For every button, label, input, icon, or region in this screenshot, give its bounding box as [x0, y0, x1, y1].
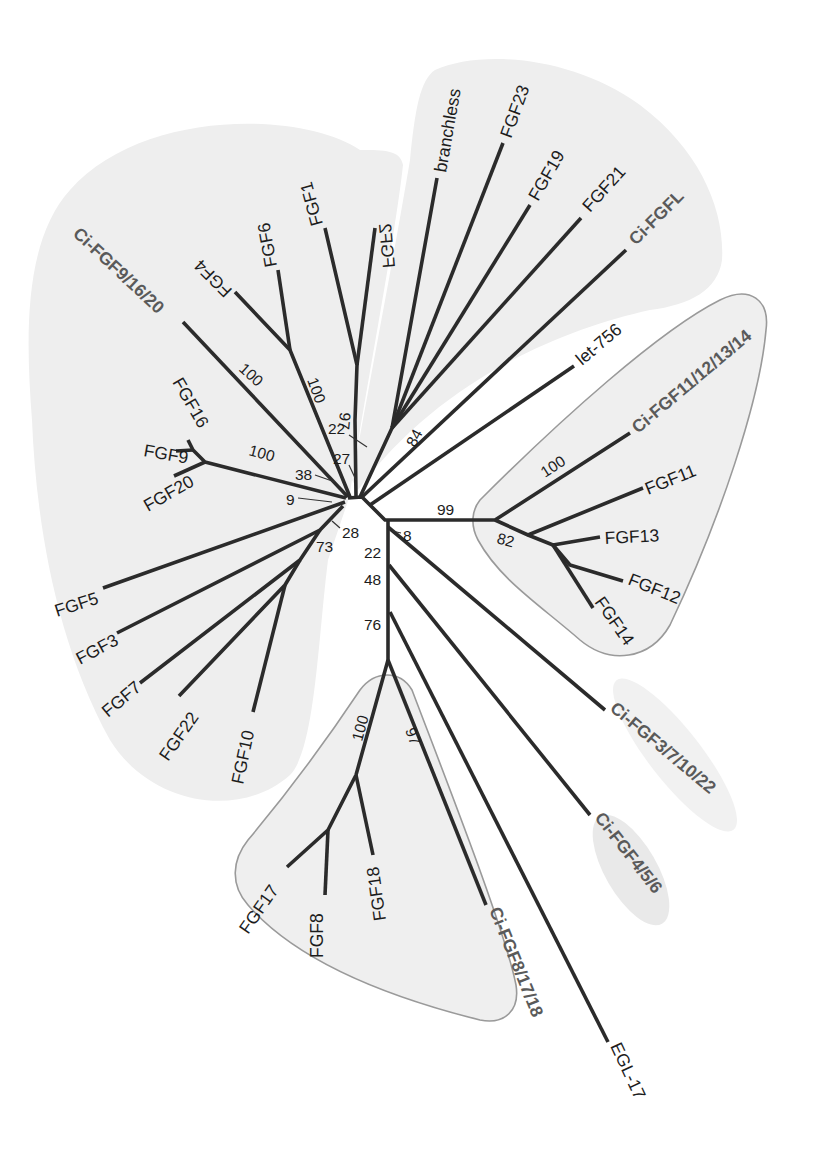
- bootstrap-9: 9: [286, 491, 295, 508]
- bootstrap-38: 38: [295, 466, 312, 483]
- phylogenetic-tree: FGF1 FGF2 FGF4 FGF6 Ci-FGF9/16/20 FGF16 …: [0, 0, 833, 1162]
- bootstrap-48: 48: [364, 571, 381, 588]
- leaf-fgf8: FGF8: [307, 913, 327, 958]
- leaf-egl-17: EGL-17: [606, 1039, 650, 1102]
- bootstrap-8: 8: [403, 527, 412, 544]
- bootstrap-22-top: 22: [328, 420, 345, 437]
- bootstrap-27: 27: [333, 450, 350, 467]
- bootstrap-28: 28: [342, 524, 359, 541]
- bootstrap-22-mid: 22: [364, 544, 381, 561]
- leaf-fgf2: FGF2: [375, 223, 399, 269]
- bootstrap-99: 99: [437, 501, 454, 518]
- leaf-fgf13: FGF13: [604, 525, 659, 548]
- bootstrap-76: 76: [364, 616, 381, 633]
- bootstrap-73: 73: [316, 538, 333, 555]
